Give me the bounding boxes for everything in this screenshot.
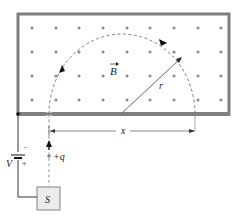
distance-arrow-right <box>189 129 195 133</box>
charge-label: +q <box>53 151 65 162</box>
voltage-label: V <box>6 158 14 169</box>
circuit-wire-lower <box>18 160 37 197</box>
source-label: S <box>45 194 50 205</box>
distance-arrow-left <box>50 129 55 133</box>
battery-minus: − <box>23 143 28 152</box>
field-label: B <box>110 65 117 77</box>
radius-label: r <box>159 80 163 91</box>
charge-dot <box>47 154 51 158</box>
distance-label: x <box>120 125 126 136</box>
mass-spectrometer-diagram: r B x − + V +q S <box>0 0 248 218</box>
battery-plus: + <box>22 159 27 168</box>
charge-direction-arrow <box>46 140 52 147</box>
